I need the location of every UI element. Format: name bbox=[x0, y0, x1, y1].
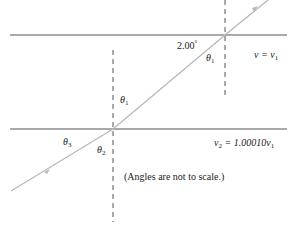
theta-2: θ2 bbox=[97, 145, 105, 157]
theta-sub: 1 bbox=[211, 57, 215, 65]
angle-value: 2.00 bbox=[177, 40, 195, 51]
diagram-canvas bbox=[0, 0, 294, 225]
velocity-sub: 1 bbox=[275, 54, 279, 62]
ray-segment-top bbox=[225, 0, 268, 35]
theta-sub: 3 bbox=[68, 141, 72, 149]
velocity-sub-1: 1 bbox=[271, 142, 275, 150]
velocity-text: v = v bbox=[254, 49, 275, 60]
theta-1-upper: θ1 bbox=[206, 53, 214, 65]
theta-3: θ3 bbox=[63, 137, 71, 149]
lower-medium-velocity: v2 = 1.00010v1 bbox=[214, 138, 274, 150]
velocity-equation: = 1.00010v bbox=[222, 137, 271, 148]
scale-note: (Angles are not to scale.) bbox=[124, 172, 224, 182]
ray-segment-bottom bbox=[11, 129, 113, 191]
theta-sub: 2 bbox=[102, 149, 106, 157]
ray-segment-middle bbox=[113, 35, 225, 129]
theta-1-middle: θ1 bbox=[120, 95, 128, 107]
refraction-diagram: 2.00° θ1 v = v1 θ1 θ3 θ2 v2 = 1.00010v1 … bbox=[0, 0, 294, 225]
angle-label: 2.00° bbox=[177, 40, 197, 51]
angle-unit: ° bbox=[195, 39, 198, 47]
upper-medium-velocity: v = v1 bbox=[254, 50, 278, 62]
theta-sub: 1 bbox=[125, 99, 129, 107]
